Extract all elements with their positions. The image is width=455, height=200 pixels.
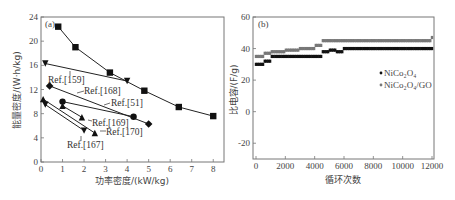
data-point-marker [42, 101, 48, 107]
y-tick-label: 0 [246, 107, 251, 117]
data-point-marker [72, 44, 78, 50]
y-tick-label: 24 [29, 12, 39, 22]
data-point-marker [79, 114, 85, 120]
panel-label-b: (b) [258, 19, 269, 29]
x-tick-label: 6 [168, 164, 173, 174]
x-tick-label: 8000 [364, 161, 383, 171]
y-tick-label: -20 [238, 138, 250, 148]
x-tick-label: 6000 [335, 161, 354, 171]
panel-a: 01234567804812162024 (a) 功率密度/(kW/kg) 能量… [11, 12, 224, 186]
x-tick-label: 10000 [391, 161, 414, 171]
legend-label-nico2o4: NiCo₂O₄ [384, 68, 416, 78]
y-tick-label: 0 [34, 157, 39, 167]
data-point-marker [92, 130, 98, 136]
x-tick-label: 12000 [421, 161, 444, 171]
figure: 01234567804812162024 (a) 功率密度/(kW/kg) 能量… [0, 0, 455, 200]
data-point-marker [262, 55, 264, 58]
series-b [255, 36, 433, 66]
data-point-marker [176, 104, 182, 110]
x-tick-label: 0 [254, 161, 259, 171]
series-line [63, 106, 82, 117]
data-point-marker [320, 44, 322, 47]
x-axis-label-a: 功率密度/(kW/kg) [95, 175, 169, 186]
data-point-marker [431, 47, 433, 50]
legend-b: NiCo₂O₄ NiCo₂O₄/GO [380, 68, 433, 90]
annotation-ref170: Ref.[170] [106, 127, 143, 137]
x-tick-label: 2 [82, 164, 87, 174]
y-axis-label-b: 比电容/(F/g) [228, 65, 239, 116]
y-tick-label: 20 [29, 36, 39, 46]
data-point-marker [269, 60, 271, 63]
x-tick-label: 3 [103, 164, 108, 174]
panel-label-a: (a) [45, 19, 55, 29]
data-point-marker [313, 47, 315, 50]
data-point-marker [130, 113, 136, 119]
x-tick-label: 2000 [276, 161, 295, 171]
y-axis-label-a: 能量密度/(W·h/kg) [11, 51, 22, 128]
axis-ticks-a: 01234567804812162024 [29, 12, 216, 174]
legend-marker-nico2o4 [380, 72, 383, 75]
x-tick-label: 4 [125, 164, 130, 174]
y-tick-label: 20 [241, 75, 251, 85]
data-point-marker [210, 113, 216, 119]
x-tick-label: 8 [211, 164, 216, 174]
y-tick-label: 40 [241, 44, 251, 54]
x-tick-label: 0 [39, 164, 44, 174]
y-tick-label: 4 [34, 133, 39, 143]
x-tick-label: 5 [146, 164, 151, 174]
x-tick-label: 4000 [306, 161, 325, 171]
y-tick-label: 60 [241, 12, 251, 22]
data-point-marker [145, 120, 153, 128]
annotation-ref51: Ref.[51] [111, 98, 143, 108]
y-tick-label: 16 [29, 60, 39, 70]
y-tick-label: 8 [34, 109, 39, 119]
panel-b: 020004000600080001000012000-200204060 (b… [228, 12, 444, 185]
data-point-marker [431, 36, 433, 39]
data-point-marker [341, 50, 343, 53]
annotations-a: Ref.[159] Ref.[168] Ref.[51] Ref.[169] R… [48, 75, 143, 150]
legend-marker-nico2o4-go [380, 84, 383, 87]
data-point-marker [141, 88, 147, 94]
data-point-marker [320, 55, 322, 58]
x-tick-label: 1 [60, 164, 65, 174]
series-line [43, 99, 95, 133]
legend-label-nico2o4-go: NiCo₂O₄/GO [384, 80, 432, 90]
annotation-ref159: Ref.[159] [48, 75, 85, 85]
annotation-ref167: Ref.[167] [67, 140, 104, 150]
data-point-marker [81, 127, 87, 133]
annotation-ref168: Ref.[168] [84, 86, 121, 96]
data-point-marker [262, 63, 264, 66]
axis-ticks-b: 020004000600080001000012000-200204060 [238, 12, 444, 171]
data-point-marker [429, 39, 431, 42]
x-tick-label: 7 [189, 164, 194, 174]
x-axis-label-b: 循环次数 [325, 174, 361, 185]
y-tick-label: 12 [29, 85, 38, 95]
data-point-marker [55, 23, 61, 29]
data-point-marker [107, 69, 113, 75]
